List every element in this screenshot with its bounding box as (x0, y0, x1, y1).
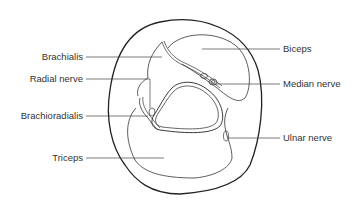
humerus-inner (156, 86, 219, 129)
label-brachialis: Brachialis (42, 51, 83, 62)
label-biceps: Biceps (283, 43, 312, 54)
label-brachioradialis: Brachioradialis (21, 110, 83, 121)
triceps-outline (128, 108, 232, 178)
brachial-artery (201, 74, 208, 79)
label-radial-nerve: Radial nerve (30, 73, 83, 84)
label-ulnar-nerve: Ulnar nerve (283, 132, 332, 143)
brachioradialis-outline-inner (143, 97, 160, 128)
skin-outline (108, 20, 261, 194)
leader-radial-nerve (86, 79, 150, 108)
humerus-outer (152, 82, 223, 132)
radial-nerve (149, 108, 155, 116)
label-triceps: Triceps (52, 152, 83, 163)
cross-section-drawing (0, 0, 360, 207)
label-median-nerve: Median nerve (283, 78, 341, 89)
